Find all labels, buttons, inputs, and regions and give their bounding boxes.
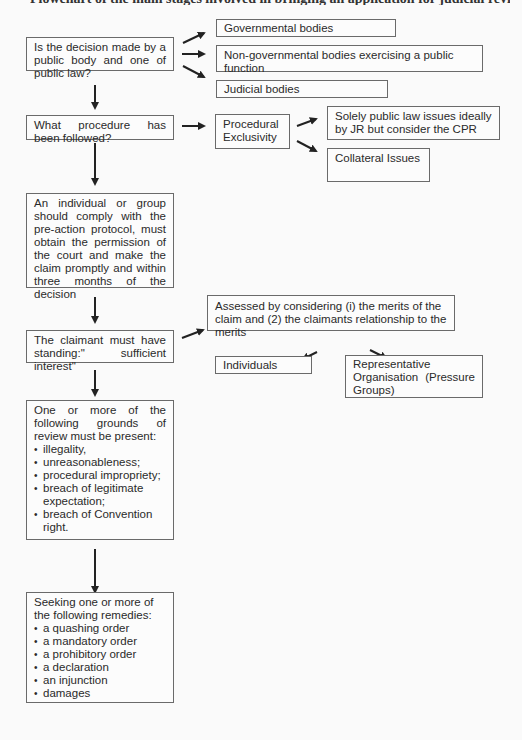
grounds-intro: One or more of the following grounds of … [34, 404, 166, 443]
remedies-list: a quashing order a mandatory order a pro… [34, 622, 166, 700]
individuals-box: Individuals [215, 356, 312, 374]
remedy-item: a prohibitory order [34, 648, 166, 661]
grounds-item: breach of legitimate expectation; [34, 482, 166, 508]
remedy-item: a mandatory order [34, 635, 166, 648]
question-public-body: Is the decision made by a public body an… [26, 37, 174, 71]
grounds-item: procedural impropriety; [34, 469, 166, 482]
collateral-issues-box: Collateral Issues [327, 148, 430, 182]
remedy-item: a declaration [34, 661, 166, 674]
grounds-item: unreasonableness; [34, 456, 166, 469]
grounds-item: illegality, [34, 443, 166, 456]
standing-box: The claimant must have standing:" suffic… [26, 330, 174, 363]
grounds-item: breach of Convention right. [34, 508, 166, 534]
grounds-of-review-box: One or more of the following grounds of … [26, 400, 174, 540]
pre-action-protocol-box: An individual or group should comply wit… [26, 193, 174, 288]
remedies-box: Seeking one or more of the following rem… [26, 592, 174, 703]
standing-assessment-box: Assessed by considering (i) the merits o… [207, 295, 455, 331]
grounds-list: illegality, unreasonableness; procedural… [34, 443, 166, 534]
question-procedure: What procedure has been followed? [26, 115, 174, 140]
remedy-item: damages [34, 687, 166, 700]
remedy-item: an injunction [34, 674, 166, 687]
governmental-bodies-box: Governmental bodies [216, 19, 396, 37]
public-law-issues-box: Solely public law issues ideally by JR b… [327, 106, 500, 140]
judicial-bodies-box: Judicial bodies [216, 80, 388, 98]
remedies-intro: Seeking one or more of the following rem… [34, 596, 166, 622]
non-governmental-bodies-box: Non-governmental bodies exercising a pub… [216, 45, 483, 72]
remedy-item: a quashing order [34, 622, 166, 635]
procedural-exclusivity-box: Procedural Exclusivity [215, 114, 290, 149]
representative-organisation-box: Representative Organisation (Pressure Gr… [345, 355, 483, 398]
